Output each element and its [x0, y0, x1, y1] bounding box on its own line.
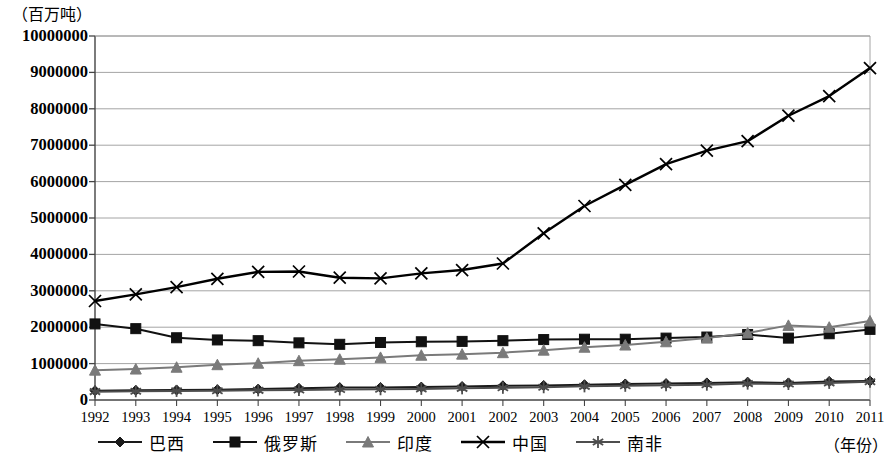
- square-marker: [335, 339, 345, 349]
- x-cross-marker: [578, 200, 590, 212]
- series-2: [90, 319, 875, 349]
- legend-label: 俄罗斯: [264, 430, 318, 455]
- y-axis-tick-label: 5000000: [30, 210, 88, 227]
- x-axis-title: （年份）: [824, 432, 888, 455]
- y-axis-tick-label: 7000000: [30, 137, 88, 154]
- legend-item[interactable]: 南非: [574, 430, 663, 455]
- square-marker: [498, 336, 508, 346]
- chart-legend: 巴西俄罗斯印度中国南非: [96, 430, 796, 454]
- x-axis-tick-label: 2002: [481, 410, 525, 425]
- y-axis-tick-label: 2000000: [30, 319, 88, 336]
- x-cross-marker: [619, 179, 631, 191]
- square-marker: [376, 337, 386, 347]
- legend-swatch: [459, 435, 507, 449]
- square-marker: [172, 333, 182, 343]
- square-marker: [211, 435, 259, 449]
- plot-area: [0, 0, 896, 455]
- diamond-marker: [96, 435, 144, 449]
- x-cross-marker: [459, 435, 507, 449]
- x-cross-marker: [823, 90, 835, 102]
- asterisk-marker: [574, 435, 622, 449]
- y-axis-tick-label: 0: [80, 392, 88, 409]
- x-axis-tick-label: 1995: [195, 410, 239, 425]
- x-axis-tick-label: 1996: [236, 410, 280, 425]
- y-axis-tick-label: 4000000: [30, 246, 88, 263]
- x-axis-tick-label: 2006: [644, 410, 688, 425]
- x-axis-tick-label: 1998: [318, 410, 362, 425]
- square-marker: [230, 437, 240, 447]
- gridlines: [95, 36, 870, 364]
- x-axis-tick-label: 2007: [685, 410, 729, 425]
- square-marker: [90, 319, 100, 329]
- legend-label: 中国: [512, 430, 548, 455]
- y-axis-tick-label: 9000000: [30, 64, 88, 81]
- square-marker: [416, 337, 426, 347]
- legend-item[interactable]: 中国: [459, 430, 548, 455]
- coal-production-line-chart: （百万吨） 0100000020000003000000400000050000…: [0, 0, 896, 455]
- y-axis-tick-label: 3000000: [30, 283, 88, 300]
- x-axis-tick-label: 2011: [848, 410, 892, 425]
- square-marker: [539, 335, 549, 345]
- x-axis-tick-label: 1992: [73, 410, 117, 425]
- legend-item[interactable]: 印度: [344, 430, 433, 455]
- x-axis-tick-label: 2000: [399, 410, 443, 425]
- square-marker: [783, 333, 793, 343]
- y-axis-tick-label: 6000000: [30, 174, 88, 191]
- square-marker: [253, 336, 263, 346]
- legend-swatch: [96, 435, 144, 449]
- axis-frame: [89, 36, 870, 406]
- x-cross-marker: [538, 227, 550, 239]
- x-cross-marker: [660, 158, 672, 170]
- x-axis-tick-label: 2005: [603, 410, 647, 425]
- x-axis-tick-label: 2010: [807, 410, 851, 425]
- series-4: [89, 62, 876, 307]
- x-axis-tick-label: 2001: [440, 410, 484, 425]
- legend-item[interactable]: 俄罗斯: [211, 430, 318, 455]
- series-line: [95, 321, 870, 370]
- triangle-marker: [344, 435, 392, 449]
- x-axis-tick-label: 2008: [726, 410, 770, 425]
- legend-item[interactable]: 巴西: [96, 430, 185, 455]
- square-marker: [131, 324, 141, 334]
- legend-swatch: [211, 435, 259, 449]
- x-axis-tick-label: 1997: [277, 410, 321, 425]
- series-line: [95, 381, 870, 391]
- series-1: [90, 376, 875, 396]
- square-marker: [294, 338, 304, 348]
- y-axis-tick-label: 1000000: [30, 356, 88, 373]
- legend-swatch: [344, 435, 392, 449]
- series-3: [90, 316, 876, 376]
- square-marker: [212, 335, 222, 345]
- y-axis-tick-labels: 0100000020000003000000400000050000006000…: [0, 0, 88, 455]
- square-marker: [457, 336, 467, 346]
- legend-swatch: [574, 435, 622, 449]
- series-line: [95, 68, 870, 301]
- x-axis-tick-label: 2009: [766, 410, 810, 425]
- x-axis-tick-label: 1999: [359, 410, 403, 425]
- x-axis-tick-label: 1994: [155, 410, 199, 425]
- legend-label: 巴西: [149, 430, 185, 455]
- x-axis-tick-label: 2004: [562, 410, 606, 425]
- diamond-marker: [115, 437, 125, 447]
- x-axis-tick-label: 2003: [522, 410, 566, 425]
- x-cross-marker: [782, 110, 794, 122]
- x-axis-tick-label: 1993: [114, 410, 158, 425]
- legend-label: 南非: [627, 430, 663, 455]
- y-axis-tick-label: 10000000: [22, 28, 88, 45]
- legend-label: 印度: [397, 430, 433, 455]
- y-axis-tick-label: 8000000: [30, 101, 88, 118]
